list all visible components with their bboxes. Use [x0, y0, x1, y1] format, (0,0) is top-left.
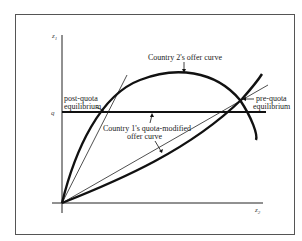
arrowhead-icon: [150, 113, 154, 117]
post-quota-label-line2: equilibrium: [64, 102, 102, 111]
arrowhead-icon: [159, 149, 163, 153]
x-axis-label: z2: [254, 206, 261, 215]
country1-curve-label-line2: offer curve: [127, 132, 163, 141]
offer-curve-diagram: z1 z2 q Country 2's offer curve post-quo…: [0, 0, 302, 241]
pre-quota-label-line2: equilibrium: [253, 102, 291, 111]
q-tick-label: q: [51, 109, 55, 117]
country2-curve-label: Country 2's offer curve: [148, 53, 222, 62]
y-axis-label: z1: [51, 32, 57, 41]
